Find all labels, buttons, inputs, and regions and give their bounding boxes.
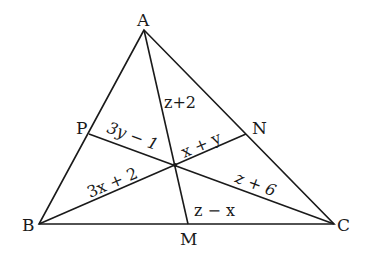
segment-label-po: 3y − 1 <box>105 118 161 154</box>
point-label-n: N <box>252 118 267 138</box>
segment-label-no: x + y <box>178 128 224 162</box>
vertex-label-a: A <box>136 10 150 30</box>
median-am <box>144 30 188 224</box>
vertex-label-c: C <box>337 215 350 235</box>
segment-label-bo: 3x + 2 <box>84 163 140 201</box>
segment-label-ao: z+2 <box>164 93 196 112</box>
point-label-m: M <box>180 229 197 249</box>
point-label-p: P <box>76 118 87 138</box>
vertex-label-b: B <box>22 215 35 235</box>
centroid-point <box>173 163 177 167</box>
segment-label-mo: z − x <box>194 201 235 220</box>
triangle-diagram: A B C P N M z+2 3y − 1 x + y 3x + 2 z + … <box>0 0 377 275</box>
